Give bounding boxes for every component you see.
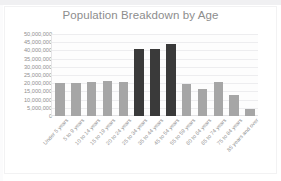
y-axis-tick-label: 25,000,000 xyxy=(24,72,52,78)
bar-slot xyxy=(84,34,100,116)
card-top-border xyxy=(0,0,281,5)
chart-title: Population Breakdown by Age xyxy=(0,9,281,21)
bar[interactable] xyxy=(134,49,144,116)
plot-area xyxy=(52,34,258,116)
bar[interactable] xyxy=(229,95,239,116)
bar-slot xyxy=(100,34,116,116)
bar-slot xyxy=(179,34,195,116)
bar[interactable] xyxy=(119,82,129,116)
bar[interactable] xyxy=(87,82,97,116)
y-axis-tick-label: 40,000,000 xyxy=(24,47,52,53)
bar[interactable] xyxy=(214,82,224,116)
bar[interactable] xyxy=(245,109,255,116)
bar-slot xyxy=(115,34,131,116)
x-axis-tick-labels: Under 5 years5 to 9 years10 to 14 years1… xyxy=(52,117,258,179)
bar-slot xyxy=(131,34,147,116)
y-axis-tick-label: 50,000,000 xyxy=(24,31,52,37)
chart-card: Population Breakdown by Age 50,000,00045… xyxy=(0,0,281,181)
y-axis-tick-label: 5,000,000 xyxy=(27,105,52,111)
bar[interactable] xyxy=(166,44,176,116)
y-axis-tick-label: 20,000,000 xyxy=(24,80,52,86)
bar-slot xyxy=(52,34,68,116)
bar-slot xyxy=(163,34,179,116)
y-axis-tick-label: 15,000,000 xyxy=(24,88,52,94)
y-axis-tick-label: 30,000,000 xyxy=(24,64,52,70)
bar-slot xyxy=(226,34,242,116)
y-axis-tick-label: 45,000,000 xyxy=(24,39,52,45)
bar-series xyxy=(52,34,258,116)
bar[interactable] xyxy=(198,89,208,116)
y-axis-tick-label: 35,000,000 xyxy=(24,56,52,62)
bar[interactable] xyxy=(55,83,65,116)
y-axis-tick-labels: 50,000,00045,000,00040,000,00035,000,000… xyxy=(8,30,52,120)
x-axis-tick-label: 85 years and over xyxy=(226,117,260,153)
y-axis-tick-label: 10,000,000 xyxy=(24,97,52,103)
bar[interactable] xyxy=(150,49,160,116)
bar-slot xyxy=(68,34,84,116)
bar-slot xyxy=(147,34,163,116)
bar[interactable] xyxy=(71,83,81,116)
bar[interactable] xyxy=(103,81,113,116)
card-left-edge xyxy=(0,5,3,181)
bar-slot xyxy=(210,34,226,116)
bar-slot xyxy=(195,34,211,116)
bar-slot xyxy=(242,34,258,116)
bar[interactable] xyxy=(182,84,192,116)
